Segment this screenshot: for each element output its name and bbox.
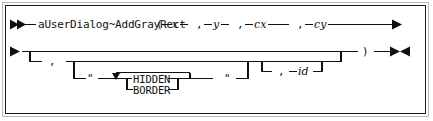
id-param-label: id — [298, 66, 309, 77]
syntax-diagram-root: aUserDialog~AddGrayRect ( x , y , cx , c… — [0, 0, 433, 121]
quote-close-label: " — [224, 73, 231, 84]
param-cy-label: cy — [314, 19, 326, 30]
open-paren-label: ( — [156, 19, 163, 30]
param-cx-label: cx — [254, 19, 266, 30]
param-x-label: x — [172, 19, 178, 30]
param-y-label: y — [213, 19, 219, 30]
method-name-label: aUserDialog~AddGrayRect — [38, 19, 186, 30]
param-cy-comma: , — [297, 19, 304, 30]
close-paren-label: ) — [362, 46, 369, 57]
id-comma-label: , — [278, 66, 285, 77]
param-cx-comma: , — [237, 19, 244, 30]
quote-open-label: " — [87, 73, 94, 84]
option-border-label: BORDER — [133, 85, 170, 96]
option-hidden-label: HIDDEN — [133, 74, 170, 85]
param-y-comma: , — [196, 19, 203, 30]
optional-group-comma: , — [49, 56, 56, 67]
